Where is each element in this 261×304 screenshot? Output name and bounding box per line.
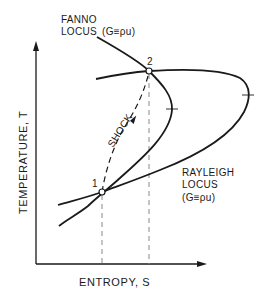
rayleigh-locus-curve <box>58 70 249 205</box>
state-projections <box>102 74 149 264</box>
fanno-label-line2: LOCUS <box>61 26 97 37</box>
state-label-1: 1 <box>92 178 98 189</box>
x-axis-arrow-icon <box>197 261 207 267</box>
fanno-label-line1: FANNO <box>61 14 97 25</box>
state-point-2 <box>146 68 152 74</box>
y-axis-arrow-icon <box>33 41 39 51</box>
y-axis-label: TEMPERATURE, T <box>17 111 29 214</box>
rayleigh-label-line2: LOCUS <box>182 179 218 190</box>
state-label-2: 2 <box>147 56 153 67</box>
shock-label: SHOCK <box>105 112 134 149</box>
rayleigh-label-line1: RAYLEIGH <box>182 167 234 178</box>
rayleigh-condition: (G≡ρu) <box>182 192 215 203</box>
fanno-condition: (G≡ρu) <box>102 26 135 37</box>
state-point-1 <box>99 189 105 195</box>
x-axis-label: ENTROPY, S <box>79 276 150 288</box>
ts-diagram: 1 2 FANNO LOCUS (G≡ρu) RAYLEIGH LOCUS (G… <box>0 0 261 304</box>
